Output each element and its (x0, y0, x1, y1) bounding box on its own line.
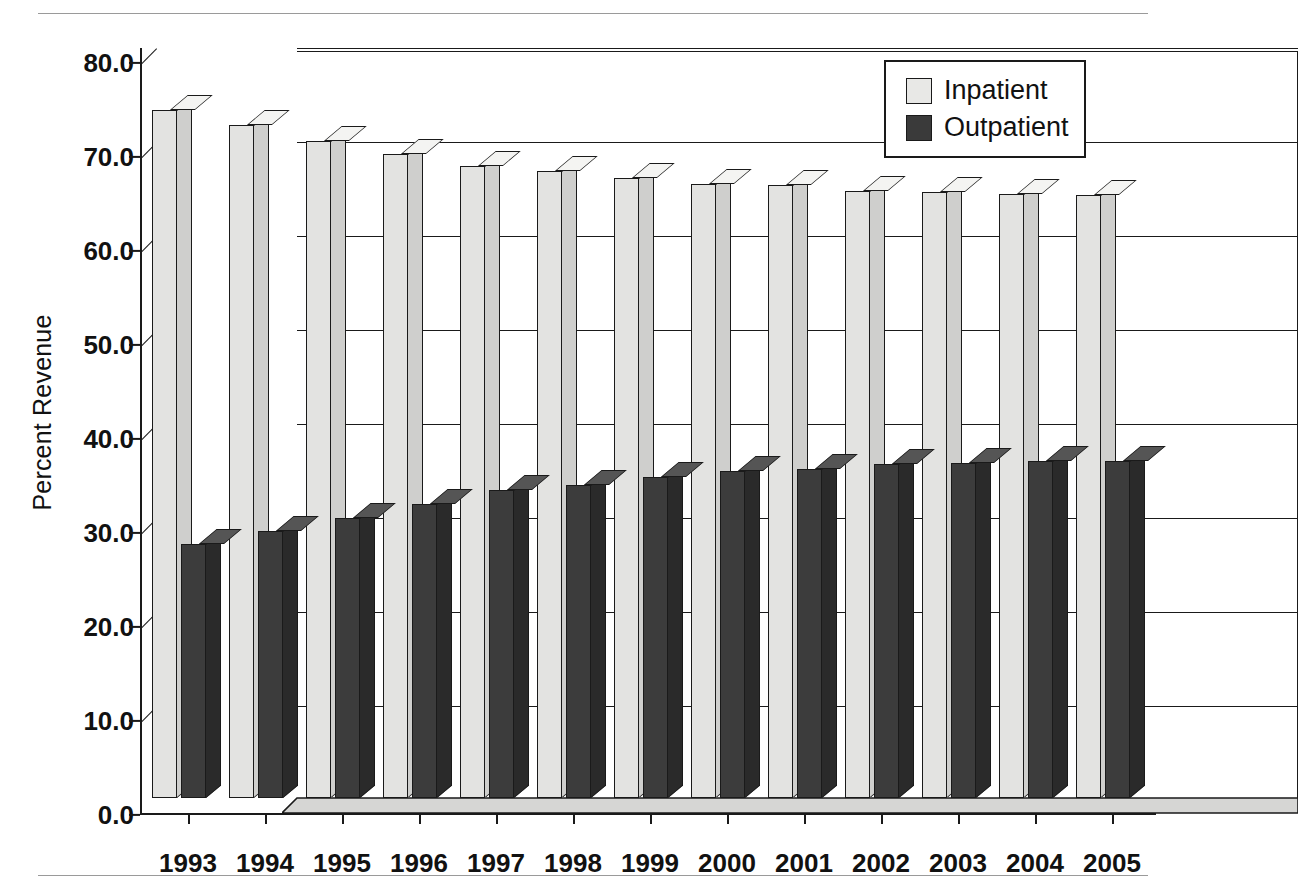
bar-front-face (537, 171, 562, 798)
legend-item-outpatient[interactable]: Outpatient (886, 109, 1084, 146)
y-tick-label: 70.0 (24, 142, 134, 173)
bar-front-face (1028, 461, 1053, 798)
bar-outpatient-2002[interactable] (874, 464, 899, 798)
bar-side-face (206, 532, 221, 798)
bar-top-face (554, 156, 597, 171)
legend-swatch-inpatient (906, 78, 932, 104)
y-tick-mark (129, 156, 140, 158)
bar-side-face (283, 518, 298, 798)
legend-item-inpatient[interactable]: Inpatient (886, 72, 1084, 109)
bar-front-face (306, 141, 331, 798)
bar-front-face (152, 110, 177, 798)
x-tick-mark (650, 813, 652, 824)
bar-outpatient-1997[interactable] (489, 490, 514, 798)
bar-inpatient-1999[interactable] (614, 178, 639, 798)
legend-label-inpatient: Inpatient (944, 75, 1048, 106)
y-tick-mark (129, 62, 140, 64)
bar-top-face (939, 177, 982, 192)
y-tick-label: 50.0 (24, 330, 134, 361)
gridline (297, 142, 1298, 143)
bar-front-face (720, 471, 745, 798)
bar-outpatient-2004[interactable] (1028, 461, 1053, 798)
x-tick-mark (496, 813, 498, 824)
bar-outpatient-2003[interactable] (951, 463, 976, 798)
bar-outpatient-1994[interactable] (258, 531, 283, 798)
bar-side-face (668, 464, 683, 798)
bar-front-face (797, 469, 822, 798)
chart-legend: Inpatient Outpatient (884, 60, 1086, 158)
bar-outpatient-1999[interactable] (643, 477, 668, 798)
bar-front-face (335, 518, 360, 798)
bar-front-face (258, 531, 283, 798)
bar-top-face (1093, 180, 1136, 195)
bar-inpatient-1998[interactable] (537, 171, 562, 798)
bar-inpatient-2002[interactable] (845, 191, 870, 798)
bar-chart: Percent Revenue 199319941995199619971998… (0, 30, 1185, 870)
x-tick-mark (342, 813, 344, 824)
bar-outpatient-1995[interactable] (335, 518, 360, 798)
bar-outpatient-2000[interactable] (720, 471, 745, 798)
y-tick-mark (129, 814, 140, 816)
bar-top-face (631, 163, 674, 178)
y-tick-label: 10.0 (24, 706, 134, 737)
bar-front-face (999, 194, 1024, 798)
bar-front-face (229, 125, 254, 798)
bar-inpatient-1993[interactable] (152, 110, 177, 798)
x-tick-mark (188, 813, 190, 824)
bar-top-face (477, 151, 520, 166)
bar-front-face (383, 154, 408, 798)
plot-floor (282, 796, 1298, 814)
y-tick-label: 30.0 (24, 518, 134, 549)
x-tick-label: 2005 (1057, 848, 1167, 879)
x-tick-mark (265, 813, 267, 824)
bar-outpatient-1993[interactable] (181, 544, 206, 798)
bar-front-face (951, 463, 976, 798)
y-tick-mark (129, 344, 140, 346)
y-tick-label: 40.0 (24, 424, 134, 455)
bar-inpatient-1996[interactable] (383, 154, 408, 798)
bar-side-face (360, 505, 375, 798)
bar-front-face (489, 490, 514, 798)
bar-side-face (1053, 449, 1068, 798)
bar-side-face (822, 456, 837, 798)
y-tick-label: 0.0 (24, 800, 134, 831)
bar-outpatient-1998[interactable] (566, 485, 591, 798)
y-tick-mark (129, 250, 140, 252)
bar-front-face (768, 185, 793, 798)
bar-front-face (181, 544, 206, 798)
bar-inpatient-1995[interactable] (306, 141, 331, 798)
bar-side-face (899, 452, 914, 798)
bar-top-face (169, 95, 212, 110)
bar-top-face (708, 169, 751, 184)
gridline-depth-connector (142, 48, 158, 64)
bar-inpatient-2000[interactable] (691, 184, 716, 798)
y-tick-mark (129, 626, 140, 628)
bar-front-face (566, 485, 591, 798)
bar-outpatient-2005[interactable] (1105, 461, 1130, 798)
bar-side-face (745, 458, 760, 798)
x-tick-mark (419, 813, 421, 824)
bar-inpatient-1997[interactable] (460, 166, 485, 798)
bar-front-face (1105, 461, 1130, 798)
bar-inpatient-2001[interactable] (768, 185, 793, 798)
bar-top-face (400, 139, 443, 154)
y-tick-label: 20.0 (24, 612, 134, 643)
bar-inpatient-2005[interactable] (1076, 195, 1101, 798)
legend-swatch-outpatient (906, 115, 932, 141)
y-tick-label: 60.0 (24, 236, 134, 267)
bar-front-face (1076, 195, 1101, 798)
bar-front-face (412, 504, 437, 798)
bar-outpatient-1996[interactable] (412, 504, 437, 798)
x-tick-mark (1035, 813, 1037, 824)
bar-inpatient-2004[interactable] (999, 194, 1024, 798)
bar-side-face (514, 477, 529, 798)
bar-outpatient-2001[interactable] (797, 469, 822, 798)
x-tick-mark (958, 813, 960, 824)
x-tick-mark (727, 813, 729, 824)
bar-side-face (437, 491, 452, 798)
bar-inpatient-1994[interactable] (229, 125, 254, 798)
bar-inpatient-2003[interactable] (922, 192, 947, 798)
floor-shape (282, 796, 1298, 814)
bar-top-face (1016, 179, 1059, 194)
plot-area: 1993199419951996199719981999200020012002… (140, 48, 1156, 815)
